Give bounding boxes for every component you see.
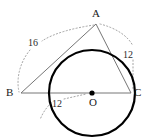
vertex-label-a: A bbox=[92, 8, 100, 19]
vertex-label-c: C bbox=[134, 87, 141, 98]
measure-label-radius: 12 bbox=[52, 99, 62, 109]
vertex-label-b: B bbox=[6, 87, 13, 98]
measure-label-side-ab: 16 bbox=[28, 38, 38, 48]
center-point-dot bbox=[89, 90, 94, 95]
leader-radius-to-circle bbox=[40, 103, 51, 120]
geometry-canvas bbox=[0, 0, 149, 139]
center-label-o: O bbox=[89, 97, 97, 108]
measure-label-side-ac: 12 bbox=[123, 50, 133, 60]
geometry-figure: A B C O 16 12 12 bbox=[0, 0, 149, 139]
triangle-side-ab bbox=[21, 24, 96, 93]
leader-radius-to-o bbox=[64, 94, 86, 99]
